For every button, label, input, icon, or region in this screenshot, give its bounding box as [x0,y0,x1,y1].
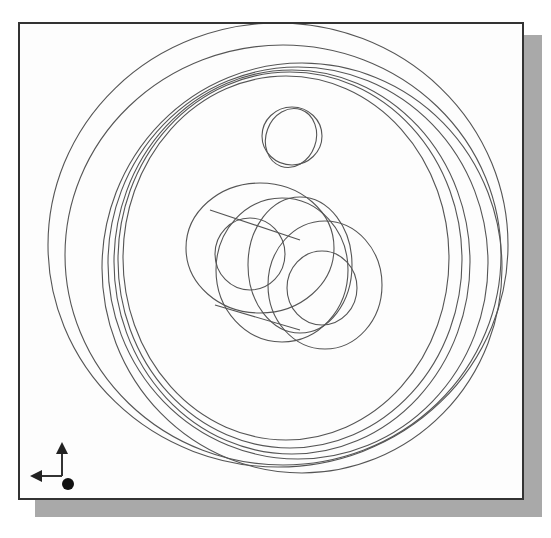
hole-edge [262,107,322,165]
outer-ring [48,24,508,467]
coordinate-triad-icon [24,438,84,498]
outer-ring [108,67,488,459]
x-axis-arrow-icon [30,470,42,482]
wireframe-model [20,24,524,500]
y-axis-arrow-icon [56,442,68,454]
outer-ring [123,76,449,440]
boss-edge [186,183,334,313]
hole-edge [257,101,325,174]
outer-ring [102,63,502,473]
graphics-viewport[interactable] [18,22,524,500]
outer-ring [118,72,462,448]
z-axis-dot-icon [62,478,74,490]
